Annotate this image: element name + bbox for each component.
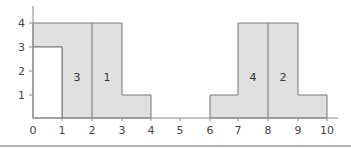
y-ticks (29, 23, 33, 95)
x-tick-label: 4 (148, 124, 155, 137)
x-tick-label: 6 (207, 124, 214, 137)
x-tick-label: 5 (177, 124, 184, 137)
x-tick-label: 10 (320, 124, 334, 137)
x-tick-label: 3 (119, 124, 126, 137)
y-tick-label: 4 (18, 17, 25, 30)
x-tick-label: 8 (265, 124, 272, 137)
region-label: 3 (74, 71, 81, 84)
step-diagram: 4 3 2 1 0 1 2 3 4 5 6 7 8 9 10 3 1 4 2 (0, 0, 351, 149)
x-tick-label: 7 (235, 124, 242, 137)
region-label: 2 (280, 71, 287, 84)
y-tick-label: 3 (18, 41, 25, 54)
x-tick-label: 2 (89, 124, 96, 137)
empty-region (33, 47, 62, 118)
x-tick-label: 9 (295, 124, 302, 137)
y-tick-label: 2 (18, 65, 25, 78)
x-tick-label: 0 (30, 124, 37, 137)
region-label: 4 (250, 71, 257, 84)
region-label: 1 (104, 71, 111, 84)
x-tick-label: 1 (59, 124, 66, 137)
y-tick-label: 1 (18, 89, 25, 102)
